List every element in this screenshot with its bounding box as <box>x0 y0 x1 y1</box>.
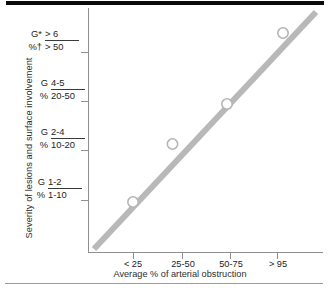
bottom-rule-divider <box>5 283 323 284</box>
trend-line <box>94 12 316 249</box>
data-point-marker <box>278 28 288 38</box>
data-point-marker <box>167 139 177 149</box>
plot-area <box>0 0 328 288</box>
figure-container: Severity of lesions and surface involvem… <box>0 0 328 288</box>
data-point-marker <box>222 99 232 109</box>
data-point-marker <box>128 197 138 207</box>
